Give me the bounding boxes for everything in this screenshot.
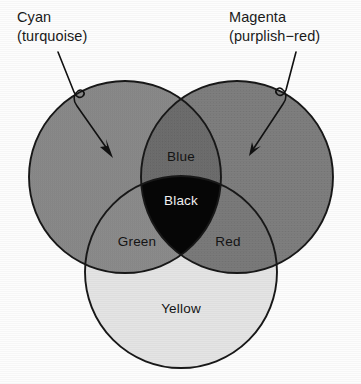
region-label-green: Green: [118, 234, 157, 249]
region-label-red: Red: [215, 234, 240, 249]
callout-labels: Cyan (turquoise) Magenta (purplish−red): [17, 9, 320, 44]
magenta-callout-line1: Magenta: [229, 9, 287, 25]
cyan-callout-line2: (turquoise): [17, 28, 87, 44]
magenta-callout-line2: (purplish−red): [229, 28, 320, 44]
region-label-yellow: Yellow: [161, 301, 201, 316]
venn-diagram-svg: Blue Black Green Red Yellow Cyan (turquo…: [0, 0, 361, 384]
region-label-black: Black: [164, 193, 198, 208]
cyan-callout-line1: Cyan: [17, 9, 51, 25]
region-label-blue: Blue: [167, 149, 195, 164]
diagram-canvas: Blue Black Green Red Yellow Cyan (turquo…: [0, 0, 361, 384]
